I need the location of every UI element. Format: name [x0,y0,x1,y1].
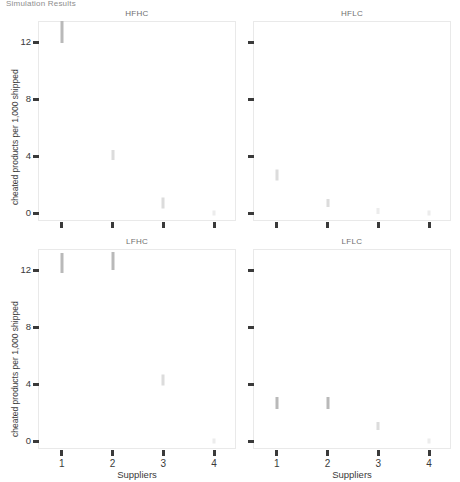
y-tick-label: 0 [9,207,31,218]
panel-title: LFHC [38,237,236,246]
y-tick-label: 12 [9,264,31,275]
x-tick-label: 3 [367,458,389,469]
data-point [111,252,114,270]
y-tick-mark [248,269,254,272]
x-tick-label: 2 [102,458,124,469]
data-point [162,375,165,386]
x-tick-mark [326,222,329,228]
y-axis-label-top: cheated products per 1,000 shipped [10,69,20,205]
data-point [162,198,165,209]
y-tick-label: 4 [9,378,31,389]
figure-root: Simulation Results cheated products per … [0,0,460,482]
data-point [377,422,380,430]
y-tick-mark [33,155,39,158]
y-tick-label: 0 [9,435,31,446]
y-tick-mark [248,326,254,329]
plot-area: 048121234 [253,249,451,449]
data-point [60,253,63,273]
x-axis-label: Suppliers [292,469,412,480]
y-tick-mark [33,41,39,44]
x-tick-mark [377,450,380,456]
data-point [377,208,380,214]
x-tick-label: 4 [203,458,225,469]
y-tick-label: 8 [9,93,31,104]
y-tick-mark [33,98,39,101]
x-axis-label: Suppliers [77,469,197,480]
data-point [326,199,329,207]
data-point [213,438,216,443]
plot-area: 048121234 [38,249,236,449]
x-tick-mark [428,450,431,456]
x-tick-label: 1 [51,458,73,469]
panel-title: HFHC [38,9,236,18]
x-tick-mark [60,222,63,228]
data-point [275,169,278,180]
data-point [326,397,329,409]
data-point [111,150,114,160]
y-tick-mark [33,383,39,386]
data-point [428,438,431,443]
x-tick-mark [213,450,216,456]
y-tick-mark [33,212,39,215]
x-tick-label: 1 [266,458,288,469]
figure-supertitle: Simulation Results [6,0,76,8]
x-tick-label: 3 [152,458,174,469]
y-tick-mark [33,440,39,443]
x-tick-mark [275,222,278,228]
facet-panel-lfhc: LFHC048121234Suppliers [38,238,236,468]
facet-panel-hflc: HFLC048121234 [253,10,451,240]
y-tick-label: 12 [9,36,31,47]
y-tick-mark [248,41,254,44]
y-tick-mark [248,212,254,215]
x-tick-mark [111,222,114,228]
panel-title: LFLC [253,237,451,246]
y-tick-mark [33,326,39,329]
y-tick-mark [248,383,254,386]
data-point [275,397,278,409]
data-point [60,21,63,43]
plot-area: 048121234 [38,21,236,221]
y-tick-mark [248,98,254,101]
x-tick-mark [162,222,165,228]
plot-area: 048121234 [253,21,451,221]
x-tick-mark [326,450,329,456]
y-tick-mark [248,440,254,443]
x-tick-mark [377,222,380,228]
x-tick-mark [213,222,216,228]
y-tick-mark [33,269,39,272]
x-tick-mark [428,222,431,228]
data-point [213,210,216,215]
data-point [428,210,431,215]
y-tick-label: 4 [9,150,31,161]
y-tick-label: 8 [9,321,31,332]
panel-title: HFLC [253,9,451,18]
x-tick-mark [162,450,165,456]
x-tick-mark [111,450,114,456]
facet-panel-hfhc: HFHC048121234 [38,10,236,240]
x-tick-mark [275,450,278,456]
y-tick-mark [248,155,254,158]
x-tick-mark [60,450,63,456]
x-tick-label: 4 [418,458,440,469]
x-tick-label: 2 [317,458,339,469]
facet-panel-lflc: LFLC048121234Suppliers [253,238,451,468]
